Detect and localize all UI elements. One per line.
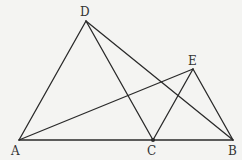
point-labels: A B C D E — [10, 5, 237, 158]
label-d: D — [80, 5, 90, 19]
geometry-diagram: A B C D E — [0, 0, 242, 160]
label-a: A — [10, 144, 20, 158]
segments — [19, 21, 233, 140]
dot-c — [151, 138, 155, 142]
segment-eb — [193, 69, 233, 140]
segment-db — [86, 21, 233, 140]
label-c: C — [147, 144, 156, 158]
label-b: B — [228, 144, 237, 158]
segment-ad — [19, 21, 86, 140]
point-dots — [151, 138, 155, 142]
segment-ae — [19, 69, 193, 140]
segment-dc — [86, 21, 153, 140]
label-e: E — [188, 54, 197, 68]
